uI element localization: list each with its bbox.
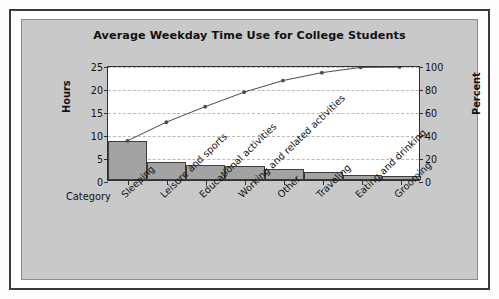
y2-axis-tick-mark [419, 182, 423, 183]
cumulative-point [398, 67, 402, 69]
y-axis-tick-mark [104, 113, 108, 114]
y-axis-tick-mark [104, 136, 108, 137]
cumulative-point [320, 71, 324, 75]
y2-axis-tick-label: 60 [425, 108, 455, 119]
y2-axis-tick-label: 100 [425, 62, 455, 73]
y2-axis-tick-mark [419, 67, 423, 68]
y-axis-tick-mark [104, 90, 108, 91]
cumulative-point [359, 67, 363, 69]
cumulative-point [126, 139, 130, 143]
y-axis-tick-label: 10 [73, 131, 103, 142]
x-axis-title-category: Category [66, 191, 111, 202]
y-axis-tick-label: 15 [73, 108, 103, 119]
y-axis-tick-label: 20 [73, 85, 103, 96]
y2-axis-tick-label: 80 [425, 85, 455, 96]
chart-panel: Average Weekday Time Use for College Stu… [21, 19, 478, 280]
cumulative-point [242, 90, 246, 94]
cumulative-percent-line [108, 67, 419, 180]
cumulative-point [203, 105, 207, 109]
y2-axis-tick-label: 0 [425, 177, 455, 188]
y-axis-title-hours: Hours [61, 80, 72, 113]
cumulative-point [281, 79, 285, 83]
cumulative-point [164, 120, 168, 124]
y-axis-tick-mark [104, 67, 108, 68]
y2-axis-title-percent: Percent [471, 72, 482, 115]
y-axis-tick-label: 25 [73, 62, 103, 73]
y2-axis-tick-mark [419, 90, 423, 91]
chart-title: Average Weekday Time Use for College Stu… [22, 29, 477, 42]
y2-axis-tick-mark [419, 159, 423, 160]
y-axis-tick-mark [104, 182, 108, 183]
y-axis-tick-label: 0 [73, 177, 103, 188]
y2-axis-tick-mark [419, 113, 423, 114]
y-axis-tick-label: 5 [73, 154, 103, 165]
y2-axis-tick-label: 40 [425, 131, 455, 142]
y-axis-tick-mark [104, 159, 108, 160]
chart-screenshot: Average Weekday Time Use for College Stu… [0, 0, 499, 299]
